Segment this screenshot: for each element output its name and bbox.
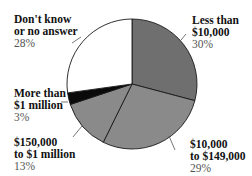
label-title: More than [14, 87, 66, 99]
label-dont-know: Don't know or no answer 28% [14, 13, 78, 49]
label-title: $10,000 [190, 138, 246, 150]
label-title: $10,000 [192, 26, 239, 38]
label-percent: 30% [192, 38, 239, 50]
label-title: Less than [192, 14, 239, 26]
label-percent: 3% [14, 111, 66, 123]
label-percent: 28% [14, 37, 78, 49]
label-title: $150,000 [14, 136, 75, 148]
label-percent: 13% [14, 160, 75, 172]
label-title: to $149,000 [190, 150, 246, 162]
label-more-than-1m: More than $1 million 3% [14, 87, 66, 123]
label-title: or no answer [14, 25, 78, 37]
label-title: $1 million [14, 99, 66, 111]
label-percent: 29% [190, 162, 246, 174]
label-title: Don't know [14, 13, 78, 25]
label-10k-to-149k: $10,000 to $149,000 29% [190, 138, 246, 174]
pie-slices [67, 19, 197, 149]
label-less-than-10k: Less than $10,000 30% [192, 14, 239, 50]
label-150k-to-1m: $150,000 to $1 million 13% [14, 136, 75, 172]
label-title: to $1 million [14, 148, 75, 160]
